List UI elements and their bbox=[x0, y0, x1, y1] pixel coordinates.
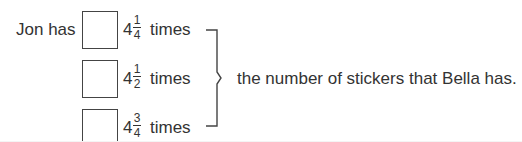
answer-checkbox-3[interactable] bbox=[82, 109, 118, 142]
option-2-word: times bbox=[150, 69, 191, 89]
page-edge bbox=[0, 141, 522, 142]
option-1-whole: 4 bbox=[123, 20, 132, 40]
option-3-fraction: 3 4 bbox=[133, 112, 141, 139]
option-3-word: times bbox=[150, 118, 191, 138]
lead-text: Jon has bbox=[16, 20, 76, 40]
option-3-numerator: 3 bbox=[134, 112, 141, 124]
option-2-denominator: 2 bbox=[134, 78, 141, 90]
option-3-denominator: 4 bbox=[134, 127, 141, 139]
conclusion-text: the number of stickers that Bella has. bbox=[237, 69, 517, 89]
curly-bracket-icon bbox=[200, 25, 230, 131]
option-2-numerator: 1 bbox=[134, 63, 141, 75]
answer-checkbox-1[interactable] bbox=[82, 11, 118, 49]
option-1-numerator: 1 bbox=[134, 14, 141, 26]
option-2-fraction: 1 2 bbox=[133, 63, 141, 90]
option-1-word: times bbox=[150, 20, 191, 40]
option-3-whole: 4 bbox=[123, 118, 132, 138]
option-1-denominator: 4 bbox=[134, 29, 141, 41]
answer-checkbox-2[interactable] bbox=[82, 60, 118, 98]
option-2-whole: 4 bbox=[123, 69, 132, 89]
option-1-fraction: 1 4 bbox=[133, 14, 141, 41]
